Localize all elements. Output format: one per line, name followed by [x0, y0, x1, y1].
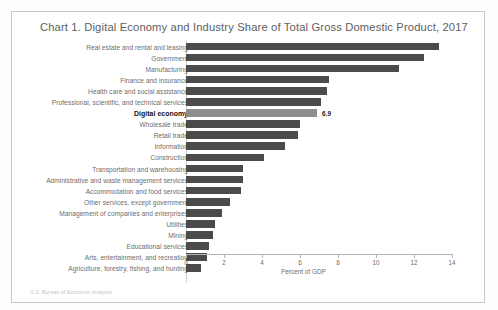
- bar-category-label: Health care and social assistance: [88, 87, 188, 94]
- plot-area: Real estate and rental and leasingGovern…: [12, 41, 486, 281]
- bar-category-label: Information: [154, 143, 188, 150]
- bar-row: Professional, scientific, and technical …: [12, 96, 486, 107]
- bar: [186, 242, 209, 250]
- bar-row: Health care and social assistance: [12, 85, 486, 96]
- bar-track: [186, 185, 486, 196]
- bar-category-label: Professional, scientific, and technical …: [52, 99, 188, 106]
- bar: [186, 87, 327, 95]
- bar: [186, 131, 298, 139]
- bar-category-label: Utilities: [166, 221, 188, 228]
- bar-category-label: Finance and insurance: [120, 76, 188, 83]
- x-tick-label: 2: [222, 259, 226, 266]
- bar-track: [186, 74, 486, 85]
- bar-category-label: Educational services: [127, 243, 188, 250]
- x-tick-label: 6: [298, 259, 302, 266]
- bar-row: Retail trade: [12, 130, 486, 141]
- bar-track: [186, 119, 486, 130]
- bar-category-label: Digital economy: [134, 110, 188, 117]
- x-tick-mark: [338, 254, 339, 258]
- x-tick-mark: [186, 254, 187, 258]
- bar-row: Government: [12, 52, 486, 63]
- bar-category-label: Management of companies and enterprises: [59, 209, 188, 216]
- bar-row: Other services, except government: [12, 196, 486, 207]
- bar-row: Accommodation and food services: [12, 185, 486, 196]
- x-tick-label: 10: [372, 259, 379, 266]
- chart-title: Chart 1. Digital Economy and Industry Sh…: [40, 21, 468, 33]
- bar-track: [186, 63, 486, 74]
- bar-row: Mining: [12, 230, 486, 241]
- x-axis: 02468101214 Percent of GDP: [186, 254, 486, 284]
- bar-row: Construction: [12, 152, 486, 163]
- bar-row: Information: [12, 141, 486, 152]
- bar: [186, 98, 321, 106]
- bar: [186, 43, 439, 51]
- bar: [186, 142, 285, 150]
- bar: [186, 109, 317, 117]
- bar-rows: Real estate and rental and leasingGovern…: [12, 41, 486, 274]
- screenshot-root: Chart 1. Digital Economy and Industry Sh…: [0, 0, 498, 310]
- x-tick-label: 12: [410, 259, 417, 266]
- bar-track: [186, 163, 486, 174]
- bar-row: Manufacturing: [12, 63, 486, 74]
- bar-row: Administrative and waste management serv…: [12, 174, 486, 185]
- bar-value-label: 6.9: [322, 110, 331, 117]
- bar-track: [186, 96, 486, 107]
- bar-category-label: Construction: [150, 154, 188, 161]
- x-tick-label: 0: [184, 259, 188, 266]
- bar: [186, 209, 222, 217]
- bar: [186, 176, 243, 184]
- bar-category-label: Retail trade: [154, 132, 188, 139]
- bar-category-label: Transportation and warehousing: [92, 165, 188, 172]
- bar-row: Wholesale trade: [12, 119, 486, 130]
- x-tick-mark: [262, 254, 263, 258]
- bar-category-label: Wholesale trade: [140, 121, 188, 128]
- bar-track: [186, 152, 486, 163]
- bar: [186, 231, 213, 239]
- bar-track: [186, 141, 486, 152]
- x-tick-mark: [224, 254, 225, 258]
- bar-category-label: Accommodation and food services: [86, 187, 188, 194]
- bar-row: Real estate and rental and leasing: [12, 41, 486, 52]
- bar-row: Utilities: [12, 219, 486, 230]
- bar-track: [186, 241, 486, 252]
- bar-track: [186, 130, 486, 141]
- x-tick-label: 14: [448, 259, 455, 266]
- bar: [186, 65, 399, 73]
- x-tick-mark: [414, 254, 415, 258]
- bar-category-label: Manufacturing: [146, 65, 188, 72]
- bar: [186, 76, 329, 84]
- bar-track: 6.9: [186, 108, 486, 119]
- bar: [186, 54, 424, 62]
- x-tick-label: 4: [260, 259, 264, 266]
- bar-category-label: Administrative and waste management serv…: [46, 176, 188, 183]
- bar-row: Management of companies and enterprises: [12, 207, 486, 218]
- x-tick-mark: [300, 254, 301, 258]
- chart-card: Chart 1. Digital Economy and Industry Sh…: [11, 11, 485, 303]
- bar: [186, 187, 241, 195]
- bar-category-label: Agriculture, forestry, fishing, and hunt…: [68, 265, 188, 272]
- bar-track: [186, 174, 486, 185]
- bar-row: Educational services: [12, 241, 486, 252]
- bar: [186, 165, 243, 173]
- bar-category-label: Government: [151, 54, 188, 61]
- x-axis-line: [186, 254, 452, 255]
- bar-category-label: Other services, except government: [84, 198, 188, 205]
- bar-track: [186, 207, 486, 218]
- bar: [186, 154, 264, 162]
- bar: [186, 220, 215, 228]
- x-tick-label: 8: [336, 259, 340, 266]
- bar-track: [186, 219, 486, 230]
- bar: [186, 198, 230, 206]
- bar-row: Transportation and warehousing: [12, 163, 486, 174]
- bar-track: [186, 196, 486, 207]
- bar-category-label: Real estate and rental and leasing: [86, 43, 188, 50]
- x-axis-title: Percent of GDP: [281, 268, 326, 275]
- source-note: U.S. Bureau of Economic Analysis: [30, 289, 112, 295]
- bar-track: [186, 230, 486, 241]
- bar-track: [186, 41, 486, 52]
- bar-category-label: Arts, entertainment, and recreation: [85, 254, 188, 261]
- bar-row: Digital economy6.9: [12, 108, 486, 119]
- x-tick-mark: [452, 254, 453, 258]
- bar-track: [186, 52, 486, 63]
- bar-track: [186, 85, 486, 96]
